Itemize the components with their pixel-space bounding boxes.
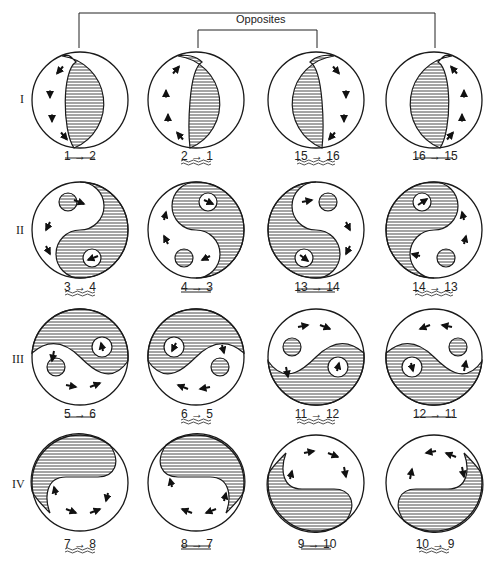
caption-9-10: 9 → 10: [277, 537, 357, 551]
caption-11-12: 11 → 12: [277, 407, 357, 421]
state-circle: [386, 182, 482, 278]
state-circle: [268, 182, 364, 278]
state-circle: [32, 182, 128, 278]
caption-16-15: 16 → 15: [395, 149, 475, 163]
caption-14-13: 14 → 13: [395, 280, 475, 294]
caption-13-14: 13 → 14: [277, 280, 357, 294]
state-circle: [268, 309, 364, 405]
state-circle: [386, 435, 483, 532]
caption-15-16: 15 → 16: [277, 149, 357, 163]
caption-3-4: 3 → 4: [40, 280, 120, 294]
caption-1-2: 1 → 2: [40, 149, 120, 163]
row-label-ii: II: [16, 223, 24, 238]
state-circle: [32, 52, 128, 148]
state-circle: [31, 434, 128, 531]
row-label-iv: IV: [12, 477, 25, 492]
caption-2-1: 2 → 1: [157, 149, 237, 163]
state-circle: [268, 52, 364, 148]
state-circle: [386, 309, 482, 405]
caption-6-5: 6 → 5: [157, 407, 237, 421]
opposites-bracket-inner: [198, 30, 317, 48]
caption-8-7: 8 → 7: [157, 537, 237, 551]
state-circle: [267, 435, 364, 532]
caption-7-8: 7 → 8: [40, 537, 120, 551]
state-circle: [148, 434, 245, 531]
state-circle: [148, 52, 244, 148]
state-circle: [32, 309, 128, 405]
state-circle: [148, 309, 244, 405]
opposites-label: Opposites: [236, 13, 286, 25]
caption-4-3: 4 → 3: [157, 280, 237, 294]
caption-5-6: 5 → 6: [40, 407, 120, 421]
row-label-i: I: [20, 92, 24, 107]
state-circle: [148, 182, 244, 278]
state-circle: [386, 52, 482, 148]
row-label-iii: III: [12, 352, 24, 367]
caption-10-9: 10 → 9: [395, 537, 475, 551]
caption-12-11: 12 → 11: [395, 407, 475, 421]
